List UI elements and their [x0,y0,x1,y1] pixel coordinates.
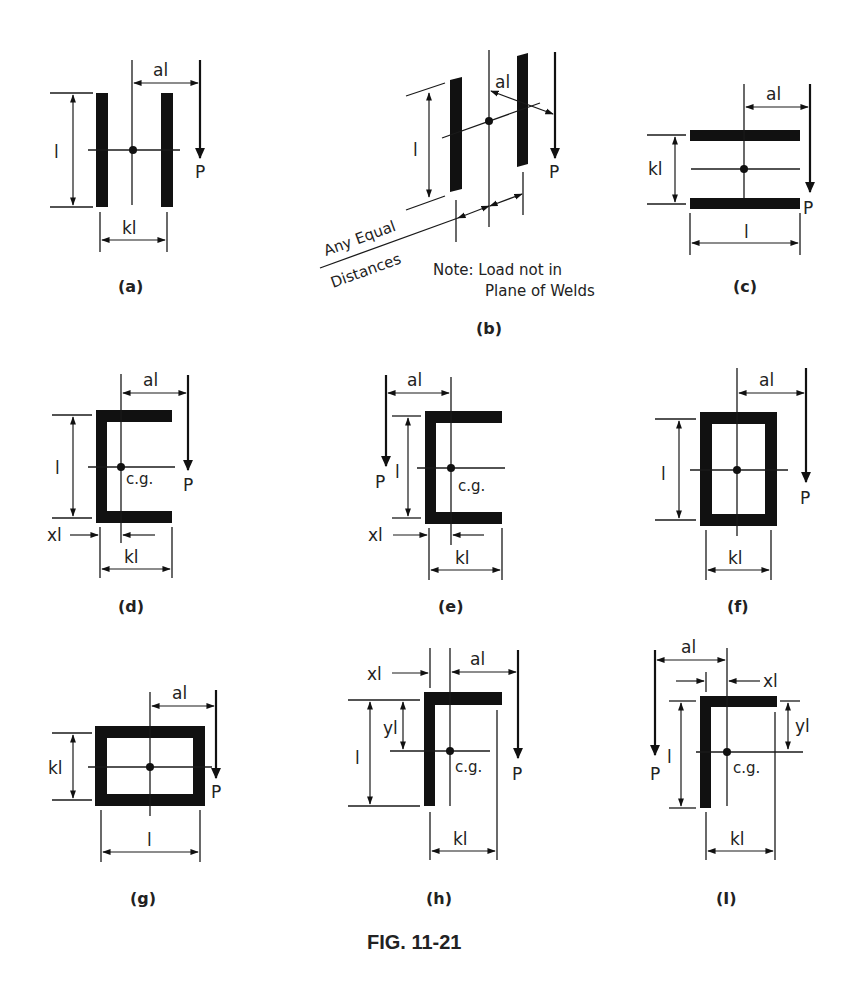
caption-f: (f) [727,597,749,616]
caption-c: (c) [733,277,757,296]
caption-e: (e) [438,597,463,616]
label-l: l [395,462,400,482]
centroid-dot [740,165,748,173]
note-line-2: Plane of Welds [485,282,595,300]
panel-i: c.g. al xl yl l kl P (I) [650,637,810,908]
equal-distance-1 [458,206,489,218]
label-xl: xl [367,664,382,684]
label-kl: kl [648,159,663,179]
panel-b: l al P Any Equal Distances Note: Load no… [320,50,595,338]
label-al: al [143,370,158,390]
label-cg: c.g. [455,758,482,776]
centroid-dot [733,466,741,474]
label-kl: kl [48,758,63,778]
label-l: l [355,748,360,768]
label-al: al [470,649,485,669]
label-p: P [195,162,205,182]
label-cg: c.g. [733,759,760,777]
centroid-dot [485,117,493,125]
label-p: P [211,782,221,802]
label-p: P [183,475,193,495]
label-kl: kl [122,218,137,238]
label-l: l [661,464,666,484]
panel-f: l kl al P (f) [655,368,810,616]
label-p: P [375,472,385,492]
caption-i: (I) [716,889,737,908]
label-cg: c.g. [458,477,485,495]
label-l: l [147,830,152,850]
panel-c: kl l al P (c) [647,84,813,296]
centroid-dot [129,146,137,154]
label-xl: xl [763,671,778,691]
weld-configurations-figure: l kl al P (a) l al P An [0,0,853,988]
label-al: al [172,683,187,703]
caption-b: (b) [476,319,502,338]
panel-d: c.g. l xl kl al P (d) [47,370,193,616]
label-xl: xl [47,525,62,545]
label-al: al [759,370,774,390]
centroid-dot [146,763,154,771]
label-al: al [495,72,510,92]
centroid-dot [447,464,455,472]
figure-title: FIG. 11-21 [367,931,462,953]
caption-g: (g) [130,889,156,908]
weld-angle [424,692,502,806]
caption-h: (h) [426,889,452,908]
label-al: al [153,60,168,80]
panel-h: c.g. xl yl l kl al P (h) [348,648,522,908]
centroid-dot [446,747,454,755]
label-yl: yl [795,716,810,736]
label-l: l [55,458,60,478]
label-kl: kl [455,548,470,568]
note-line-1: Note: Load not in [433,261,562,279]
label-xl: xl [368,525,383,545]
label-kl: kl [124,547,139,567]
label-kl: kl [730,829,745,849]
label-l: l [744,222,749,242]
label-l: l [413,140,418,160]
label-l: l [667,747,672,767]
label-kl: kl [728,548,743,568]
label-al: al [407,370,422,390]
label-p: P [650,764,660,784]
label-p: P [549,162,559,182]
weld-top [690,130,800,141]
centroid-dot [117,463,125,471]
caption-a: (a) [118,277,143,296]
panel-g: kl l al P (g) [48,683,221,908]
centroid-dot [723,748,731,756]
annotation-distances: Distances [328,250,403,292]
label-p: P [800,488,810,508]
label-kl: kl [453,829,468,849]
label-l: l [54,142,59,162]
panel-e: c.g. l xl kl al P (e) [368,370,505,616]
label-p: P [803,198,813,218]
weld-bottom [690,198,800,209]
label-al: al [766,84,781,104]
label-p: P [512,764,522,784]
label-yl: yl [383,718,398,738]
label-cg: c.g. [126,470,153,488]
label-al: al [681,637,696,657]
caption-d: (d) [118,597,144,616]
panel-a: l kl al P (a) [50,60,205,296]
equal-distance-2 [490,194,522,206]
